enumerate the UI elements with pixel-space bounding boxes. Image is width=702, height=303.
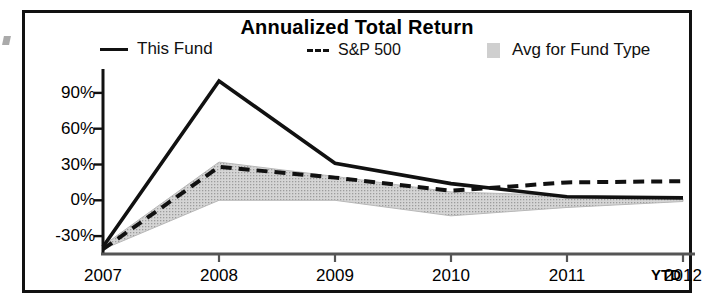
scan-artifact	[2, 36, 11, 45]
y-tick-label: 60%	[33, 119, 95, 139]
chart-frame: Annualized Total Return This Fund S&P 50…	[22, 10, 692, 293]
this-fund-line	[103, 81, 683, 247]
y-tick-label: 90%	[33, 83, 95, 103]
chart-axes	[94, 69, 695, 262]
x-tick-label: 2007	[84, 266, 122, 286]
y-tick-label: 30%	[33, 155, 95, 175]
y-axis-labels: -30%0%30%60%90%	[33, 13, 95, 296]
x-axis-labels: 200720082009201020112012	[25, 266, 695, 292]
plot-area	[25, 13, 695, 296]
y-tick-label: -30%	[33, 226, 95, 246]
x-tick-label: 2008	[200, 266, 238, 286]
y-tick-label: 0%	[33, 190, 95, 210]
x-tick-label: 2011	[549, 266, 586, 286]
x-tick-label: 2009	[316, 266, 354, 286]
x-tick-label: 2010	[432, 266, 470, 286]
x-axis-ytd-label: YTD	[651, 266, 681, 283]
chart-canvas	[25, 13, 695, 296]
